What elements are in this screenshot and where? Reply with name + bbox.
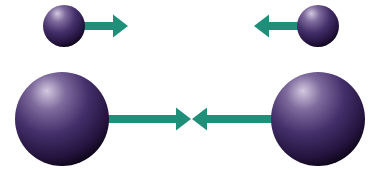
sphere-large-right — [271, 72, 365, 166]
sphere-small-right — [297, 5, 339, 47]
small-left-arrow-icon — [84, 15, 128, 38]
small-right-arrow-icon — [254, 15, 299, 38]
sphere-small-left — [43, 5, 85, 47]
attraction-diagram — [0, 0, 385, 170]
sphere-large-left — [15, 72, 109, 166]
large-left-arrow-icon — [108, 108, 191, 131]
large-right-arrow-icon — [192, 108, 273, 131]
